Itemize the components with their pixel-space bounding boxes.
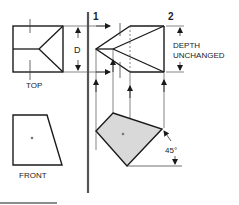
depth-label-line1: DEPTH	[173, 41, 200, 50]
front-view	[13, 115, 62, 165]
top-view-label: TOP	[26, 81, 42, 90]
depth-label-line2: UNCHANGED	[173, 51, 225, 60]
dimension-d-label: D	[74, 45, 81, 55]
rotated-front-view	[96, 113, 162, 166]
top-view	[13, 19, 63, 80]
plane-1-label: 1	[93, 11, 99, 22]
front-view-label: FRONT	[19, 171, 47, 180]
angle-label: 45°	[165, 146, 177, 155]
plane-2-label: 2	[168, 11, 174, 22]
revolution-diagram: TOP D 1 2 DEPTH UNCHANGED	[0, 0, 239, 205]
rotated-top-view	[96, 23, 164, 78]
